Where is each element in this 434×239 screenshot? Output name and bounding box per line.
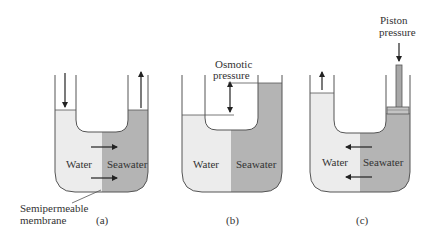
water-fill [182,115,231,192]
seawater-label: Seawater [107,158,148,170]
membrane-label-line2: membrane [20,214,67,226]
water-label: Water [66,158,92,170]
panel-b: Osmotic pressure Water Seawater (b) [182,58,282,227]
piston-label-line2: pressure [379,26,416,38]
caption-c: (c) [356,214,369,227]
u-tube-inner [76,75,128,132]
piston [387,65,409,114]
panel-c: Piston pressure Water Seawater (c) [310,14,416,227]
seawater-fill [360,113,410,192]
membrane-label-line1: Semipermeable [20,202,89,214]
water-label: Water [193,158,219,170]
water-label: Water [322,156,348,168]
caption-a: (a) [96,214,109,227]
seawater-fill [231,83,282,192]
seawater-fill [102,110,148,192]
osmosis-diagram: Water Seawater Semipermeable membrane (a… [0,0,434,239]
osmotic-label-line2: pressure [213,69,250,81]
seawater-label: Seawater [236,158,277,170]
water-fill [55,110,102,192]
u-tube-inner [334,75,386,133]
seawater-label: Seawater [363,156,404,168]
piston-label-line1: Piston [380,14,408,26]
caption-b: (b) [226,214,239,227]
panel-a: Water Seawater Semipermeable membrane (a… [20,72,148,227]
